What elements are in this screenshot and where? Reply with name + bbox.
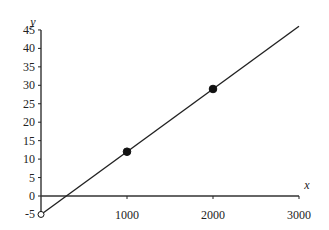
y-tick-label: 40 [23, 41, 35, 55]
y-tick-label: 5 [29, 171, 35, 185]
y-axis-label: y [29, 15, 36, 29]
y-tick-label: -5 [25, 207, 35, 221]
y-tick-label: 25 [23, 97, 35, 111]
data-point [209, 85, 217, 93]
y-tick-label: 10 [23, 152, 35, 166]
line-chart: -5051015202530354045100020003000yx [0, 0, 329, 230]
data-point [123, 148, 131, 156]
x-axis-label: x [303, 178, 310, 192]
fitted-line [41, 26, 299, 214]
x-tick-label: 2000 [201, 208, 225, 222]
y-tick-label: 15 [23, 134, 35, 148]
intercept-marker [38, 211, 44, 217]
y-tick-label: 35 [23, 60, 35, 74]
y-tick-label: 0 [29, 189, 35, 203]
x-tick-label: 1000 [115, 208, 139, 222]
x-tick-label: 3000 [287, 208, 311, 222]
y-tick-label: 20 [23, 115, 35, 129]
y-tick-label: 30 [23, 78, 35, 92]
